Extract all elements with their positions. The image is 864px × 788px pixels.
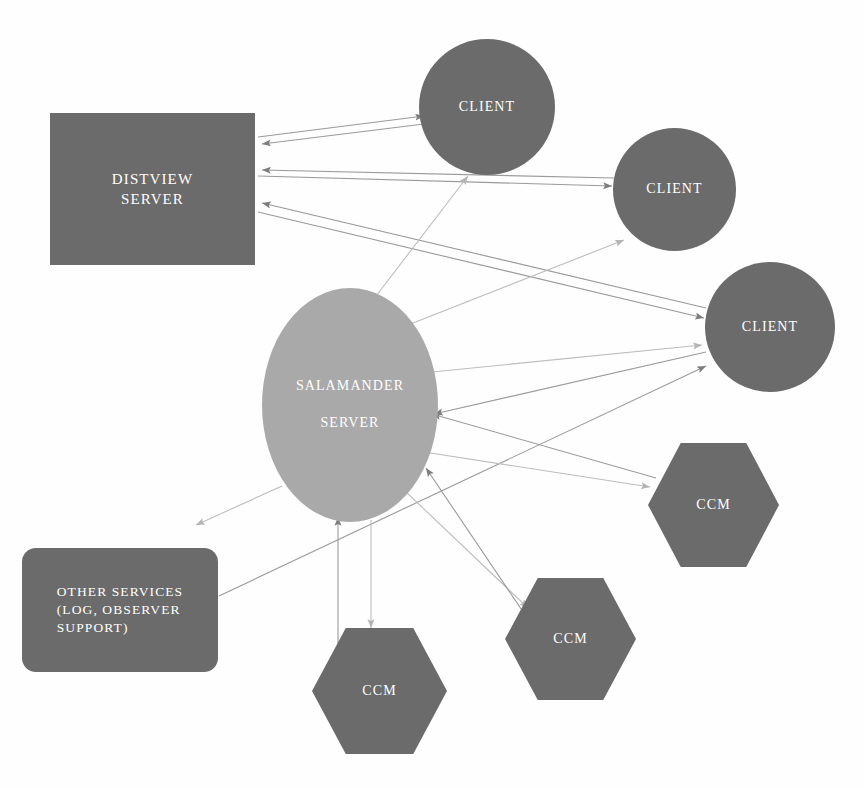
edge-client3-to-salamander <box>434 352 706 414</box>
salamander-server-label-line2: SERVER <box>296 414 404 433</box>
edge-ccm2-to-salamander <box>432 414 656 478</box>
salamander-server-label: SALAMANDER SERVER <box>288 377 412 433</box>
edge-salamander-to-other-services <box>196 486 282 525</box>
node-salamander-server[interactable]: SALAMANDER SERVER <box>262 288 438 522</box>
client-3-label: CLIENT <box>742 318 798 337</box>
ccm-2-label: CCM <box>553 630 587 649</box>
diagram-canvas: DISTVIEW SERVER SALAMANDER SERVER OTHER … <box>0 0 864 788</box>
node-client-1[interactable]: CLIENT <box>419 39 555 175</box>
client-1-label: CLIENT <box>459 98 515 117</box>
other-services-label-line3: SUPPORT) <box>57 619 183 637</box>
node-client-3[interactable]: CLIENT <box>705 262 835 392</box>
distview-server-label-line2: SERVER <box>112 189 193 209</box>
edge-client1-to-distview <box>262 124 424 144</box>
edge-salamander-to-client1 <box>373 176 468 300</box>
edge-client2-to-distview <box>262 170 614 178</box>
other-services-label: OTHER SERVICES (LOG, OBSERVER SUPPORT) <box>49 583 191 638</box>
ccm-3-label: CCM <box>696 496 730 515</box>
salamander-server-label-line1: SALAMANDER <box>296 377 404 396</box>
other-services-label-line1: OTHER SERVICES <box>57 583 183 601</box>
edge-salamander-to-ccm2 <box>424 452 650 487</box>
salamander-label-gap <box>296 396 404 414</box>
client-2-label: CLIENT <box>646 180 702 199</box>
other-services-label-line2: (LOG, OBSERVER <box>57 601 183 619</box>
distview-server-label-line1: DISTVIEW <box>112 169 193 189</box>
distview-server-label: DISTVIEW SERVER <box>104 169 201 210</box>
node-other-services[interactable]: OTHER SERVICES (LOG, OBSERVER SUPPORT) <box>22 548 218 672</box>
edge-distview-to-client2 <box>258 176 612 186</box>
node-distview-server[interactable]: DISTVIEW SERVER <box>50 113 255 265</box>
edge-salamander-to-ccm3 <box>404 490 528 608</box>
edge-salamander-to-client3 <box>432 345 702 372</box>
ccm-1-label: CCM <box>362 682 396 701</box>
node-client-2[interactable]: CLIENT <box>613 128 736 251</box>
edge-salamander-to-client2 <box>408 240 624 325</box>
